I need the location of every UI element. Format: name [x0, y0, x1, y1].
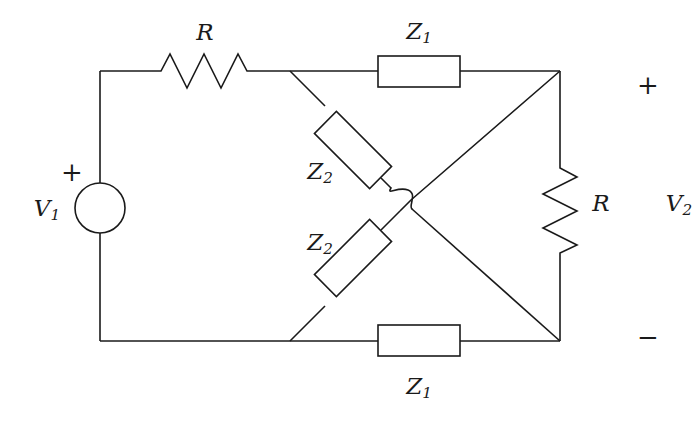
resistor-r-series [152, 54, 255, 88]
resistor-r-load [543, 160, 577, 260]
label-z2-upper: Z2 [307, 160, 333, 183]
wire-diag1-upper-seg [290, 71, 325, 106]
wire-diag2-upper-seg [400, 71, 560, 211]
voltage-source-symbol [75, 183, 125, 233]
impedance-box-z1-bottom [378, 325, 460, 356]
wire-diag1-lower-seg [412, 209, 560, 341]
label-z2-lower: Z2 [307, 231, 333, 254]
wire-diag1-to-hop [381, 178, 391, 188]
label-r-series: R [196, 21, 213, 44]
label-v2: V2 [666, 192, 692, 215]
wire-crossover-hop [390, 188, 413, 209]
wire-diag2-lower-seg [290, 306, 325, 341]
source-plus-sign: + [61, 159, 83, 185]
label-v1: V1 [34, 197, 60, 220]
label-z1-top: Z1 [406, 20, 432, 43]
impedance-box-z1-top [378, 56, 460, 87]
label-r-load: R [592, 192, 609, 215]
circuit-diagram-canvas: R Z1 Z2 Z2 Z1 R V1 + V2 + − [0, 0, 700, 422]
output-plus-sign: + [637, 72, 659, 98]
label-z1-bottom: Z1 [406, 375, 432, 398]
wire-diag2-mid-seg [381, 211, 400, 230]
output-minus-sign: − [637, 324, 659, 350]
